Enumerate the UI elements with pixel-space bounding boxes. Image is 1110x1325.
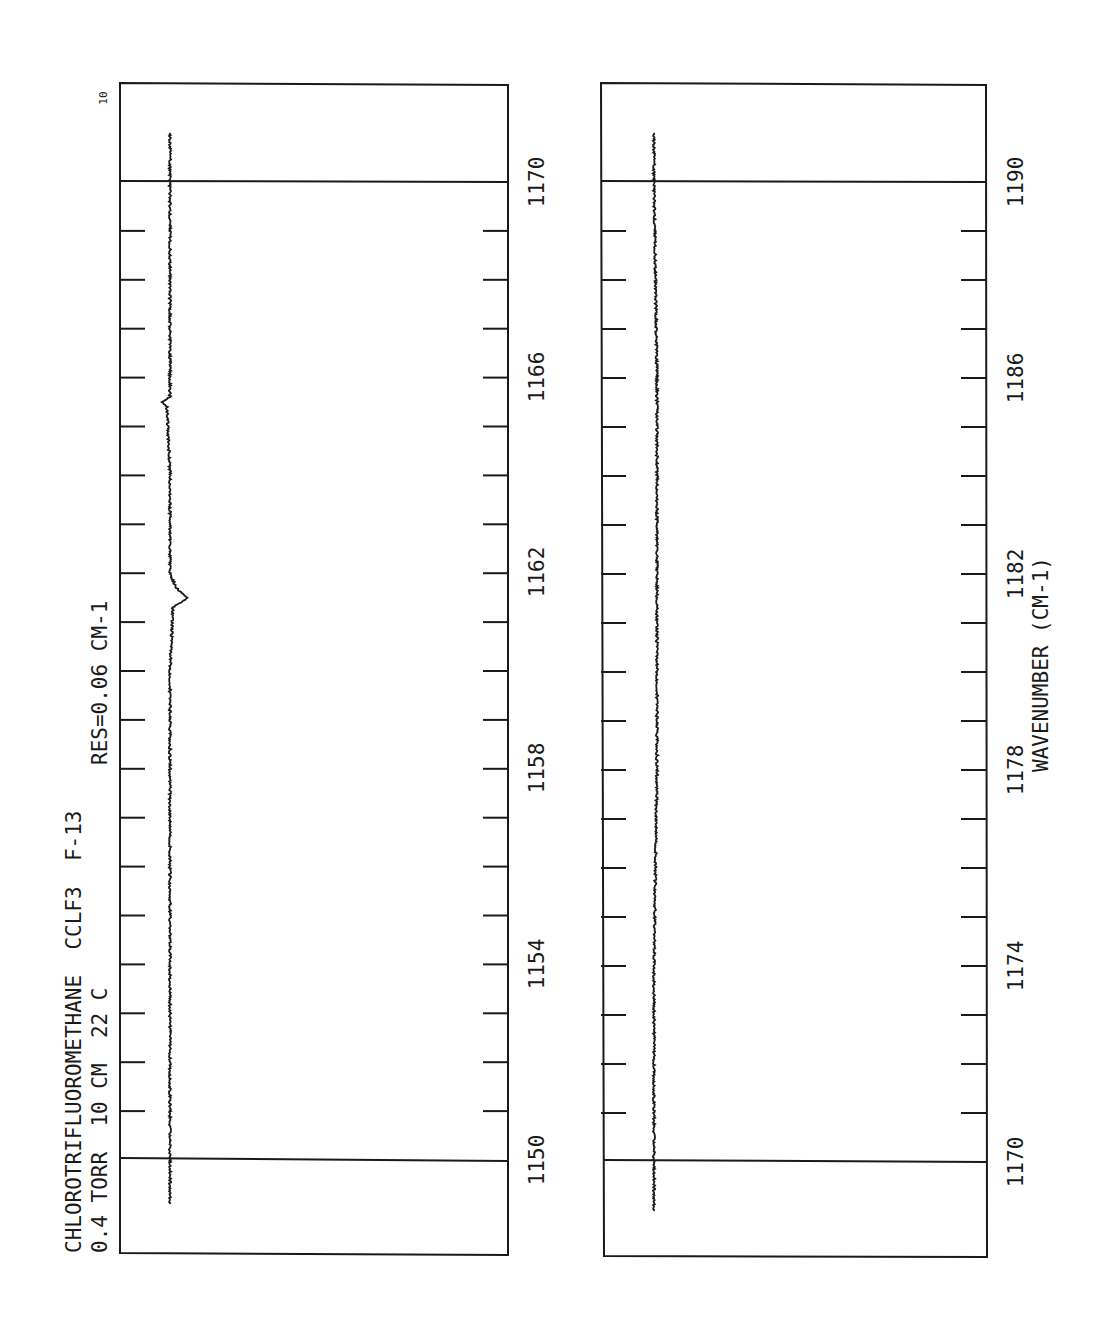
tick-label: 1150 [525, 1135, 549, 1186]
tick-label: 1154 [525, 939, 549, 990]
tick-label: 1162 [525, 547, 549, 598]
x-axis-label: WAVENUMBER (CM-1) [1029, 557, 1053, 772]
left-spectrum-trace [162, 133, 188, 1204]
right-reference-line-bottom [603, 1160, 987, 1162]
left-tick-labels: 1150 1154 1158 1162 1166 1170 [525, 157, 549, 1186]
scale-marker: 10 [97, 91, 110, 104]
right-tick-marks [601, 231, 986, 1113]
tick-label: 1186 [1004, 353, 1028, 404]
spectrum-figure: 10 CHLOROTRIFLUOROMETHANE CCLF3 F-13 0.4… [0, 0, 1110, 1325]
left-panel [120, 83, 508, 1255]
right-tick-labels: 1170 1174 1178 1182 1186 1190 [1004, 157, 1028, 1188]
tick-label: 1174 [1004, 941, 1028, 992]
conditions-line: 0.4 TORR 10 CM 22 C [88, 987, 112, 1253]
tick-label: 1170 [525, 157, 549, 208]
right-panel [601, 83, 987, 1257]
tick-label: 1182 [1004, 549, 1028, 600]
resolution-label: RES=0.06 CM-1 [88, 601, 112, 765]
right-spectrum-trace [653, 133, 658, 1211]
right-reference-line-top [601, 181, 986, 182]
tick-label: 1166 [525, 352, 549, 403]
left-reference-line-top [120, 181, 508, 182]
title-line: CHLOROTRIFLUOROMETHANE CCLF3 F-13 [62, 810, 86, 1253]
tick-label: 1170 [1004, 1137, 1028, 1188]
left-reference-line-bottom [120, 1158, 508, 1161]
tick-label: 1158 [525, 743, 549, 794]
right-panel-frame [601, 83, 987, 1257]
tick-label: 1178 [1004, 745, 1028, 796]
left-panel-frame [120, 83, 508, 1255]
left-tick-marks [120, 231, 508, 1111]
tick-label: 1190 [1004, 157, 1028, 208]
